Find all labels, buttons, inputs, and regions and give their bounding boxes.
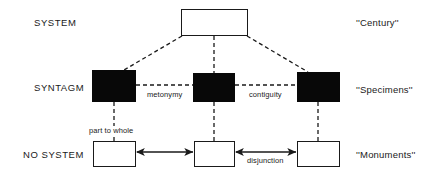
row-label-system: SYSTEM <box>34 17 76 28</box>
edge-label-metonymy: metonymy <box>146 90 183 99</box>
edge-label-part-to-whole: part to whole <box>88 126 134 135</box>
connector-system-to-syntagm-left <box>124 36 182 70</box>
diagram-canvas: SYSTEM SYNTAGM NO SYSTEM ''Century'' ''S… <box>0 0 440 178</box>
edge-label-disjunction: disjunction <box>246 156 285 165</box>
side-label-specimens: ''Specimens'' <box>356 84 413 95</box>
connector-system-to-syntagm-right <box>247 36 308 72</box>
row-label-no-system: NO SYSTEM <box>23 149 84 160</box>
side-label-century: ''Century'' <box>356 17 399 28</box>
node-syntagm-right[interactable] <box>297 72 340 102</box>
node-syntagm-middle[interactable] <box>193 73 235 102</box>
node-nosystem-right[interactable] <box>297 141 340 167</box>
node-nosystem-middle[interactable] <box>194 141 235 167</box>
edge-label-contiguity: contiguity <box>248 90 283 99</box>
node-syntagm-left[interactable] <box>92 70 136 102</box>
node-system-box[interactable] <box>181 9 248 36</box>
side-label-monuments: ''Monuments'' <box>356 149 416 160</box>
node-nosystem-left[interactable] <box>93 141 136 167</box>
row-label-syntagm: SYNTAGM <box>34 82 84 93</box>
